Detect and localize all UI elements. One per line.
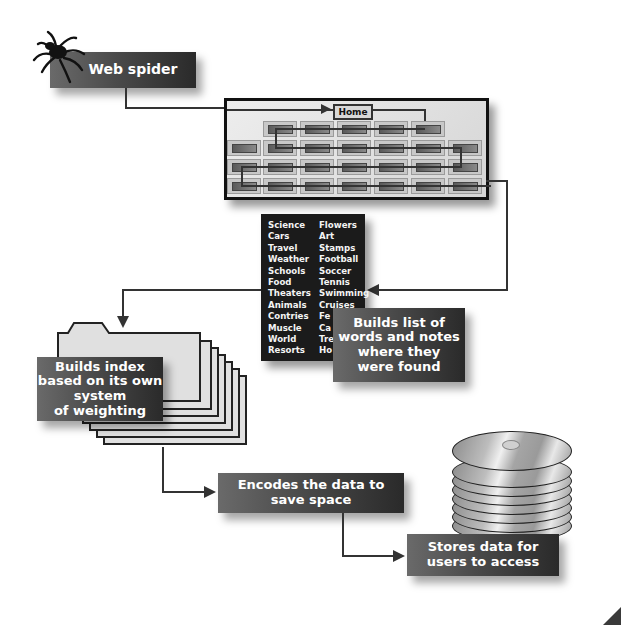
crawl-path: [241, 185, 491, 187]
connector-index-encode: [162, 447, 164, 492]
corner-triangle: [603, 607, 621, 625]
word: Science: [268, 220, 311, 231]
crawl-path: [460, 147, 462, 167]
word: Muscle: [268, 323, 311, 334]
arrow-into-store: [393, 550, 405, 562]
word: Resorts: [268, 345, 311, 356]
arrow-into-encode: [204, 486, 216, 498]
word: Contries: [268, 311, 311, 322]
build-list-box: Builds list of words and notes where the…: [333, 308, 465, 382]
word: Tennis: [319, 277, 369, 288]
web-spider-label: Web spider: [89, 62, 178, 78]
build-list-line: words and notes: [338, 330, 460, 345]
build-list-line: were found: [358, 360, 441, 375]
word: Cars: [268, 231, 311, 242]
store-box: Stores data for users to access: [407, 534, 559, 576]
spider-icon: [30, 30, 90, 86]
website-graphic: Home: [224, 98, 489, 200]
crawl-path: [275, 147, 460, 149]
connector-wordlist-index-v: [122, 289, 124, 316]
word: Soccer: [319, 266, 369, 277]
connector-wordlist-index: [122, 289, 262, 291]
word: World: [268, 334, 311, 345]
word: Animals: [268, 300, 311, 311]
word: Stamps: [319, 243, 369, 254]
connector-encode-store: [342, 513, 344, 557]
word: Travel: [268, 243, 311, 254]
connector-website-wordlist: [486, 180, 508, 182]
arrow-into-home: [321, 104, 331, 114]
word: Football: [319, 254, 369, 265]
build-index-line: based on its own: [38, 374, 162, 389]
crawl-path: [241, 166, 462, 168]
word: Schools: [268, 266, 311, 277]
home-page-box: Home: [333, 104, 373, 120]
build-list-line: Builds list of: [353, 316, 445, 331]
word: Theaters: [268, 288, 311, 299]
encode-box: Encodes the data to save space: [218, 473, 404, 513]
page-box: [227, 140, 261, 156]
connector-spider-website: [125, 88, 127, 109]
build-index-line: Builds index: [55, 360, 145, 375]
word-column-1: Science Cars Travel Weather Schools Food…: [268, 220, 311, 357]
crawl-path: [241, 166, 243, 186]
connector-website-wordlist-v: [506, 180, 508, 291]
crawl-path: [275, 128, 277, 148]
word: Weather: [268, 254, 311, 265]
crawl-path: [275, 128, 425, 130]
store-line: users to access: [427, 555, 540, 570]
word: Swimming: [319, 288, 369, 299]
connector-encode-store-h: [342, 555, 394, 557]
connector-website-wordlist-h: [378, 289, 508, 291]
build-index-box: Builds index based on its own system of …: [37, 357, 163, 421]
word: Art: [319, 231, 369, 242]
word: Flowers: [319, 220, 369, 231]
build-index-line: of weighting: [54, 404, 146, 419]
encode-line: Encodes the data to: [238, 478, 385, 493]
word: Food: [268, 277, 311, 288]
encode-line: save space: [271, 493, 352, 508]
build-list-line: where they: [358, 345, 441, 360]
connector-spider-website-h: [125, 107, 225, 109]
build-index-line: system: [74, 389, 127, 404]
store-line: Stores data for: [428, 540, 539, 555]
nav-path: [227, 109, 333, 111]
nav-path: [373, 109, 426, 111]
connector-index-encode-h: [162, 491, 206, 493]
